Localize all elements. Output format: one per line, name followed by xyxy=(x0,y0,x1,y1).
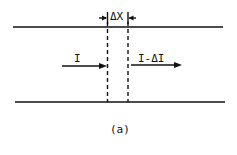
dx-arrowhead-right-icon xyxy=(129,16,134,21)
input-arrowhead-icon xyxy=(99,63,107,69)
dx-arrowhead-left-icon xyxy=(102,16,107,21)
output-current-label: I-ΔI xyxy=(138,53,165,64)
input-current-label: I xyxy=(74,53,81,64)
figure-caption: (a) xyxy=(110,124,130,135)
delta-x-label: ΔX xyxy=(110,11,123,22)
output-arrowhead-icon xyxy=(174,62,182,68)
